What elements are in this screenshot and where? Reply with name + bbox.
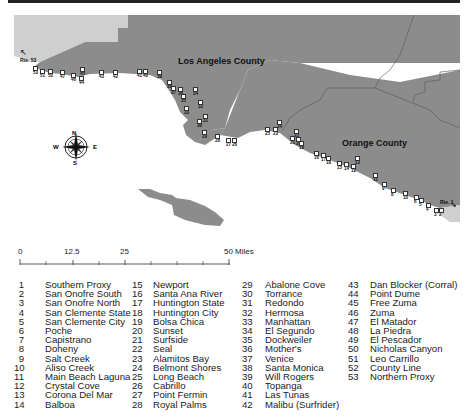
site-dot-icon <box>167 80 172 85</box>
site-dot-icon <box>373 173 378 178</box>
site-dot-icon <box>273 127 278 132</box>
site-dot-icon <box>299 141 304 146</box>
legend-column-1: 1Southern Proxy2San Onofre South3San Ono… <box>14 280 131 409</box>
site-dot-icon <box>178 87 183 92</box>
legend-column-3: 29Abalone Cove30Torrance31Redondo32Hermo… <box>242 280 339 409</box>
legend-number: 28 <box>132 400 142 409</box>
legend-site-name: Malibu (Surfrider) <box>265 400 339 409</box>
arrow-northwest-icon: ↖ <box>20 48 27 57</box>
road-marker-se: Rte. 1 <box>440 199 454 205</box>
site-dot-icon <box>226 138 231 143</box>
road-marker-nw: Rte. 53 <box>20 57 36 63</box>
legend-number: 14 <box>14 400 24 409</box>
site-dot-icon <box>33 66 38 71</box>
site-dot-icon <box>197 119 202 124</box>
catalina-island <box>138 189 224 226</box>
site-dot-icon <box>215 134 220 139</box>
site-dot-icon <box>290 136 295 141</box>
compass-n: N <box>72 130 76 136</box>
site-dot-icon <box>143 69 148 74</box>
legend-item: 14Balboa <box>14 400 131 409</box>
site-dot-icon <box>337 161 342 166</box>
site-dot-icon <box>71 73 76 78</box>
site-dot-icon <box>202 130 207 135</box>
site-dot-icon <box>157 70 162 75</box>
site-dot-icon <box>419 198 424 203</box>
site-dot-icon <box>40 69 45 74</box>
site-dot-icon <box>99 70 104 75</box>
coastline-map <box>0 0 472 240</box>
scale-bar: 0 12.5 25 50 Miles <box>0 240 300 270</box>
legend-number: 53 <box>348 372 358 381</box>
legend-item: 53Northern Proxy <box>348 372 457 381</box>
site-dot-icon <box>355 156 360 161</box>
site-dot-icon <box>171 86 176 91</box>
site-dot-icon <box>294 129 299 134</box>
orange-county-land <box>220 60 460 208</box>
legend-item: 5San Clemente City <box>14 317 131 326</box>
site-dot-icon <box>193 87 198 92</box>
site-dot-icon <box>265 127 270 132</box>
site-dot-icon <box>60 70 65 75</box>
site-dot-icon <box>48 69 53 74</box>
compass-e: E <box>93 144 97 150</box>
site-dot-icon <box>426 203 431 208</box>
site-dot-icon <box>181 94 186 99</box>
site-dot-icon <box>184 106 189 111</box>
site-dot-icon <box>344 162 349 167</box>
legend-item: 45Free Zuma <box>348 298 457 307</box>
legend-site-name: Northern Proxy <box>370 372 435 381</box>
legend-site-name: Royal Palms <box>153 400 207 409</box>
legend-item: 21Surfside <box>132 335 224 344</box>
county-label-orange: Orange County <box>342 138 407 148</box>
compass-s: S <box>73 160 77 166</box>
site-dot-icon <box>198 100 203 105</box>
site-dot-icon <box>137 69 142 74</box>
site-dot-icon <box>80 67 85 72</box>
site-dot-icon <box>439 208 444 213</box>
compass-w: W <box>53 144 59 150</box>
legend-item: 42Malibu (Surfrider) <box>242 400 339 409</box>
site-dot-icon <box>232 138 237 143</box>
site-dot-icon <box>403 191 408 196</box>
site-dot-icon <box>314 151 319 156</box>
legend-item: 28Royal Palms <box>132 400 224 409</box>
county-label-la: Los Angeles County <box>178 56 265 66</box>
site-dot-icon <box>203 114 208 119</box>
site-dot-icon <box>326 156 331 161</box>
site-dot-icon <box>382 182 387 187</box>
compass-rose <box>62 133 90 161</box>
site-dot-icon <box>113 70 118 75</box>
legend-column-4: 43Dan Blocker (Corral)44Point Dume45Free… <box>348 280 457 381</box>
site-dot-icon <box>391 188 396 193</box>
legend-site-name: Balboa <box>45 400 75 409</box>
site-dot-icon <box>277 120 282 125</box>
legend-column-2: 15Newport16Santa Ana River17Huntington S… <box>132 280 224 409</box>
site-dot-icon <box>79 76 84 81</box>
legend-number: 42 <box>242 400 252 409</box>
site-dot-icon <box>351 164 356 169</box>
